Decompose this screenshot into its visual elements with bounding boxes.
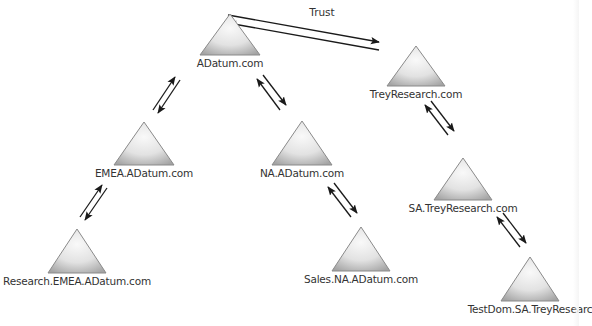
arrow-icon <box>257 79 280 110</box>
domain-label-sa: SA.TreyResearch.com <box>409 202 518 214</box>
domain-label-adatum: ADatum.com <box>197 57 263 69</box>
arrow-icon <box>228 15 379 42</box>
trust-arrows-emea-research-emea <box>80 185 107 220</box>
trust-arrows-adatum-na <box>257 75 286 110</box>
right-edge-shadow <box>573 0 579 326</box>
trust-label: Trust <box>309 6 334 18</box>
domain-triangle-icon <box>501 257 559 301</box>
domain-label-research-emea: Research.EMEA.ADatum.com <box>3 275 151 287</box>
arrow-icon <box>431 101 454 131</box>
domain-label-na: NA.ADatum.com <box>260 167 344 179</box>
domain-label-emea: EMEA.ADatum.com <box>95 167 193 179</box>
arrow-icon <box>263 75 286 105</box>
trust-arrows-adatum-emea <box>153 77 180 113</box>
nodes-layer <box>48 14 559 301</box>
arrow-icon <box>425 105 448 135</box>
domain-triangle-icon <box>434 158 492 200</box>
arrow-icon <box>328 187 351 217</box>
arrow-icon <box>503 213 526 243</box>
domain-label-treyresearch: TreyResearch.com <box>370 88 462 100</box>
domain-triangle-icon <box>272 121 332 165</box>
trust-arrows-sa-testdom-sa <box>497 213 526 247</box>
domain-triangle-icon <box>332 227 390 271</box>
domain-triangle-icon <box>200 14 260 55</box>
arrow-icon <box>334 183 357 213</box>
trust-arrows-treyresearch-sa <box>425 101 454 135</box>
trust-arrows-na-sales-na <box>328 183 357 217</box>
domain-triangle-icon <box>387 46 445 86</box>
domain-triangle-icon <box>114 122 174 165</box>
domain-triangle-icon <box>48 229 106 273</box>
domain-label-sales-na: Sales.NA.ADatum.com <box>304 273 418 285</box>
arrow-icon <box>497 217 520 247</box>
